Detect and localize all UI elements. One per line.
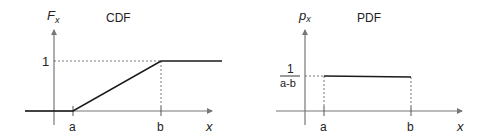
- cdf-tick-b-label: b: [157, 120, 164, 134]
- cdf-xlabel: x: [205, 119, 213, 134]
- pdf-tick-a-label: a: [320, 120, 327, 134]
- pdf-title: PDF: [357, 11, 381, 25]
- pdf-frac-denominator: a-b: [280, 77, 296, 89]
- cdf-tick-one-label: 1: [42, 54, 49, 69]
- pdf-frac-numerator: 1: [287, 62, 294, 76]
- pdf-curve: [324, 76, 411, 77]
- pdf-tick-b-label: b: [407, 120, 414, 134]
- cdf-tick-a-label: a: [69, 120, 76, 134]
- cdf-title: CDF: [106, 11, 131, 25]
- figure: Fx CDF 1 a b x px PDF 1 a-b a b x: [0, 0, 489, 139]
- cdf-panel: Fx CDF 1 a b x: [25, 8, 222, 134]
- cdf-ylabel: Fx: [47, 8, 60, 25]
- pdf-xlabel: x: [456, 119, 464, 134]
- pdf-panel: px PDF 1 a-b a b x: [276, 8, 464, 134]
- pdf-ylabel: px: [298, 8, 311, 24]
